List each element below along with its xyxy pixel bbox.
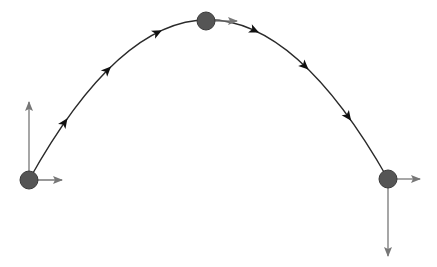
launch-point-ball (20, 171, 38, 189)
direction-arrow-icon (248, 24, 261, 36)
trajectory (29, 20, 388, 180)
apex-point-ball (197, 12, 215, 30)
trajectory-curve (29, 20, 388, 180)
trajectory-direction-arrows (58, 24, 355, 129)
projectile-motion-diagram (0, 0, 437, 267)
direction-arrow-icon (151, 26, 164, 39)
direction-arrow-icon (58, 116, 71, 129)
direction-arrow-icon (342, 110, 355, 123)
velocity-vectors (29, 21, 420, 256)
projectile-positions (20, 12, 397, 189)
landing-point-ball (379, 170, 397, 188)
